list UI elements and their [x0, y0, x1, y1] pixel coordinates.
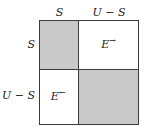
matrix-grid: E→ E←: [39, 20, 139, 125]
row-header-s: S: [0, 39, 35, 50]
cell-label-e-backward: E←: [51, 91, 66, 102]
column-header-u-minus-s: U − S: [79, 7, 139, 18]
block-matrix-diagram: S U − S S U − S E→ E←: [0, 0, 147, 135]
cell-label-text: E: [51, 90, 59, 103]
right-arrow-icon: →: [109, 36, 116, 45]
matrix-cell-u-minus-s-u-minus-s: [79, 70, 138, 124]
cell-label-e-forward: E→: [101, 39, 116, 50]
matrix-cell-u-minus-s-to-s: E←: [40, 70, 79, 124]
matrix-cell-s-s: [40, 21, 79, 70]
matrix-cell-s-to-u-minus-s: E→: [79, 21, 138, 70]
column-header-s: S: [40, 7, 79, 18]
row-header-u-minus-s: U − S: [0, 90, 35, 101]
left-arrow-icon: ←: [59, 88, 66, 97]
cell-label-text: E: [101, 38, 109, 51]
